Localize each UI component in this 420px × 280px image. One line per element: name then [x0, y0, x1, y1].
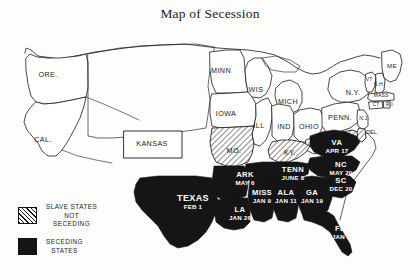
secession-date-virginia: APR 17 — [326, 147, 349, 153]
solid-swatch-icon — [18, 238, 37, 255]
state-texas — [134, 176, 218, 248]
secession-date-north-carolina: MAY 20 — [330, 169, 353, 175]
legend-line-1: SLAVE STATES — [46, 203, 97, 212]
secession-date-louisiana: JAN 26 — [229, 214, 251, 220]
state-name-georgia: GA — [301, 189, 323, 197]
legend-line-1: SECEDING — [46, 238, 83, 247]
state-label-delaware: DEL. — [366, 130, 378, 135]
state-label-indiana: IND — [277, 123, 291, 130]
state-label-ohio: OHIO — [299, 123, 319, 130]
state-name-tennessee: TENN — [282, 166, 305, 174]
state-name-arkansas: ARK — [235, 171, 254, 179]
state-label-kentucky: KY. — [284, 149, 296, 156]
state-label-alabama: ALA JAN 11 — [275, 189, 297, 204]
state-california — [24, 97, 86, 156]
legend-item-slave-not-seceding: SLAVE STATES NOT SECEDING — [18, 203, 138, 229]
state-label-west-virginia: W.VA — [309, 142, 322, 147]
state-name-south-carolina: SC — [330, 177, 353, 185]
legend-line-2: NOT — [46, 212, 97, 221]
secession-date-alabama: JAN 11 — [275, 197, 297, 203]
territory-divider-west — [86, 97, 139, 120]
state-label-maine: ME — [387, 63, 397, 69]
state-label-massachusetts: MASS — [374, 93, 389, 98]
state-label-kansas: KANSAS — [136, 140, 168, 147]
state-name-florida: FLA — [332, 225, 354, 233]
state-label-arkansas: ARK MAY 6 — [235, 171, 254, 186]
state-label-new-york: N.Y. — [346, 89, 361, 96]
state-label-new-jersey: N.J. — [359, 116, 368, 121]
state-label-vermont: VT — [366, 77, 373, 82]
state-label-new-hampshire: N.H. — [374, 82, 385, 87]
territory-divider-southwest — [62, 150, 112, 163]
state-label-oregon: ORE. — [38, 71, 57, 78]
secession-date-arkansas: MAY 6 — [235, 179, 254, 185]
secession-date-florida: JAN 10 — [332, 233, 354, 239]
state-label-mississippi: MISS JAN 9 — [252, 189, 272, 204]
state-label-connecticut: CT — [373, 102, 380, 107]
map-legend: SLAVE STATES NOT SECEDING SECEDING STATE… — [18, 203, 138, 264]
state-name-north-carolina: NC — [330, 161, 353, 169]
secession-date-georgia: JAN 19 — [301, 197, 323, 203]
state-label-wisconsin: WIS — [249, 86, 264, 93]
state-label-michigan: MICH — [278, 98, 298, 105]
hatch-swatch-icon — [18, 207, 37, 224]
state-label-virginia: VA APR 17 — [326, 139, 349, 154]
legend-line-3: SECEDING — [46, 220, 97, 229]
state-name-alabama: ALA — [275, 189, 297, 197]
state-label-florida: FLA JAN 10 — [332, 225, 354, 240]
state-label-california: CAL. — [34, 136, 52, 143]
state-name-texas: TEXAS — [177, 194, 209, 203]
state-label-minnesota: MINN — [211, 67, 231, 74]
legend-label-slave-not-seceding: SLAVE STATES NOT SECEDING — [46, 203, 97, 229]
state-label-louisiana: LA JAN 26 — [229, 206, 251, 221]
state-label-tennessee: TENN JUNE 8 — [282, 166, 305, 181]
state-label-missouri: MO. — [227, 147, 242, 154]
state-label-pennsylvania: PENN. — [328, 114, 352, 121]
legend-item-seceding-states: SECEDING STATES — [18, 238, 138, 255]
state-label-iowa: IOWA — [216, 110, 237, 117]
state-label-texas: TEXAS FEB 1 — [177, 194, 209, 210]
legend-line-2: STATES — [46, 247, 83, 256]
state-label-georgia: GA JAN 19 — [301, 189, 323, 204]
state-name-louisiana: LA — [229, 206, 251, 214]
legend-label-seceding-states: SECEDING STATES — [46, 238, 83, 255]
state-label-south-carolina: SC DEC 20 — [330, 177, 353, 192]
state-label-north-carolina: NC MAY 20 — [330, 161, 353, 176]
secession-date-tennessee: JUNE 8 — [282, 174, 305, 180]
map-of-secession-figure: Map of Secession — [0, 0, 420, 280]
western-territories — [88, 44, 214, 138]
state-label-rhode-island: R.I. — [386, 102, 394, 107]
state-name-virginia: VA — [326, 139, 349, 147]
secession-date-mississippi: JAN 9 — [252, 197, 272, 203]
state-name-mississippi: MISS — [252, 189, 272, 197]
state-label-illinois: ILL — [253, 122, 264, 129]
secession-date-south-carolina: DEC 20 — [330, 185, 353, 191]
secession-date-texas: FEB 1 — [177, 204, 209, 210]
